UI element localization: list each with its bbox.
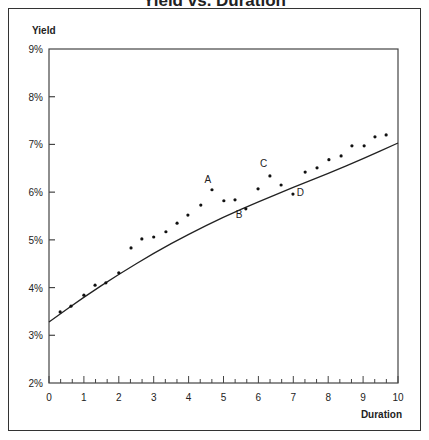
data-point bbox=[315, 166, 318, 169]
annotation-c: C bbox=[260, 158, 267, 169]
annotation-b: B bbox=[236, 209, 243, 220]
data-point-b bbox=[244, 207, 247, 210]
data-point bbox=[104, 281, 107, 284]
data-point bbox=[363, 144, 366, 147]
data-point bbox=[304, 171, 307, 174]
data-point bbox=[129, 246, 132, 249]
y-tick-label: 3% bbox=[29, 330, 44, 341]
data-point bbox=[350, 144, 353, 147]
data-point bbox=[59, 310, 62, 313]
fitted-curve bbox=[49, 143, 398, 322]
y-tick-label: 9% bbox=[29, 44, 44, 55]
x-tick-label: 9 bbox=[360, 392, 366, 403]
scatter-chart: 2%3%4%5%6%7%8%9%Yield012345678910Duratio… bbox=[0, 0, 429, 440]
x-tick-label: 2 bbox=[116, 392, 122, 403]
y-tick-label: 4% bbox=[29, 283, 44, 294]
data-point bbox=[256, 187, 259, 190]
data-point bbox=[117, 271, 120, 274]
x-tick-label: 5 bbox=[221, 392, 227, 403]
y-tick-label: 6% bbox=[29, 187, 44, 198]
y-tick-label: 7% bbox=[29, 139, 44, 150]
y-tick-label: 5% bbox=[29, 235, 44, 246]
x-tick-label: 10 bbox=[392, 392, 404, 403]
data-point bbox=[186, 213, 189, 216]
axes: 2%3%4%5%6%7%8%9%Yield012345678910Duratio… bbox=[29, 25, 404, 420]
y-axis-label: Yield bbox=[32, 25, 56, 36]
data-point bbox=[152, 235, 155, 238]
data-point bbox=[279, 183, 282, 186]
y-tick-label: 2% bbox=[29, 378, 44, 389]
data-point bbox=[93, 284, 96, 287]
data-point bbox=[175, 222, 178, 225]
annotation-d: D bbox=[297, 187, 304, 198]
data-point bbox=[340, 154, 343, 157]
x-axis-label: Duration bbox=[361, 409, 402, 420]
x-tick-label: 1 bbox=[81, 392, 87, 403]
data-point bbox=[327, 158, 330, 161]
data-point bbox=[140, 237, 143, 240]
x-tick-label: 6 bbox=[256, 392, 262, 403]
data-point bbox=[373, 135, 376, 138]
data-point bbox=[199, 203, 202, 206]
data-point bbox=[233, 198, 236, 201]
data-point bbox=[222, 199, 225, 202]
annotation-a: A bbox=[204, 174, 211, 185]
x-tick-label: 3 bbox=[151, 392, 157, 403]
data-point bbox=[385, 133, 388, 136]
x-tick-label: 0 bbox=[46, 392, 52, 403]
data-point-d bbox=[291, 192, 294, 195]
data-point bbox=[164, 230, 167, 233]
data-point-a bbox=[210, 188, 213, 191]
plot-border bbox=[49, 49, 398, 383]
data-point bbox=[82, 294, 85, 297]
data-point bbox=[69, 305, 72, 308]
x-tick-label: 7 bbox=[291, 392, 297, 403]
y-tick-label: 8% bbox=[29, 92, 44, 103]
data-point-c bbox=[268, 174, 271, 177]
x-tick-label: 4 bbox=[186, 392, 192, 403]
plot-area: ABCD bbox=[49, 133, 398, 322]
x-tick-label: 8 bbox=[325, 392, 331, 403]
